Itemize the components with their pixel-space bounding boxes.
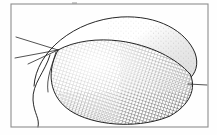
illustration-canvas	[0, 0, 217, 135]
illustration-figure: Mesh-textured dome illustration line-art…	[0, 0, 217, 135]
